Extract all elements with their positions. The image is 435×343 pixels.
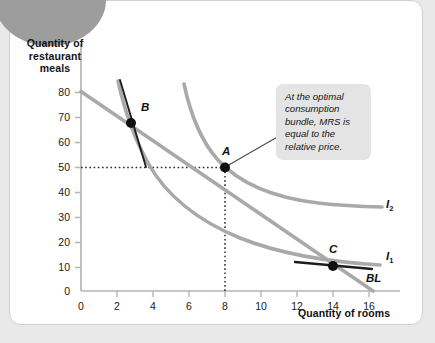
screenshot-root: Quantity of restaurant meals Quantity of… [0,0,435,343]
y-tick-label-80: 80 [48,86,70,98]
x-tick-label-6: 6 [179,300,199,312]
y-tick-label-60: 60 [48,136,70,148]
y-axis-title-line-2: restaurant [29,50,81,62]
point-label-B: B [141,101,149,113]
curve-label-I2: I2 [386,198,393,213]
data-point-C[interactable] [328,261,338,271]
y-axis-title: Quantity of restaurant meals [14,37,96,75]
point-label-A: A [222,145,230,157]
y-axis-title-line-3: meals [40,62,70,74]
x-tick-label-4: 4 [143,300,163,312]
y-tick-label-70: 70 [48,111,70,123]
callout-box: At the optimal consumption bundle, MRS i… [276,84,371,160]
y-tick-label-0: 0 [48,285,70,297]
x-tick-label-12: 12 [287,300,307,312]
y-axis-title-line-1: Quantity of [27,37,84,49]
data-point-A[interactable] [220,163,230,173]
curve-label-I1: I1 [386,250,393,265]
x-tick-label-8: 8 [215,300,235,312]
x-tick-label-2: 2 [107,300,127,312]
curve-label-I2-sub: 2 [389,204,393,213]
curve-label-I1-sub: 1 [389,256,393,265]
x-tick-label-16: 16 [359,300,379,312]
x-tick-label-10: 10 [251,300,271,312]
y-tick-label-40: 40 [48,186,70,198]
y-axis-ticks [75,93,81,268]
y-tick-label-50: 50 [48,161,70,173]
data-point-B[interactable] [126,118,136,128]
x-axis-ticks [117,291,369,297]
curve-label-BL: BL [366,272,381,284]
y-tick-label-10: 10 [48,261,70,273]
x-tick-label-14: 14 [323,300,343,312]
y-tick-label-30: 30 [48,211,70,223]
y-tick-label-20: 20 [48,236,70,248]
x-tick-label-0: 0 [71,300,91,312]
point-label-C: C [329,243,337,255]
